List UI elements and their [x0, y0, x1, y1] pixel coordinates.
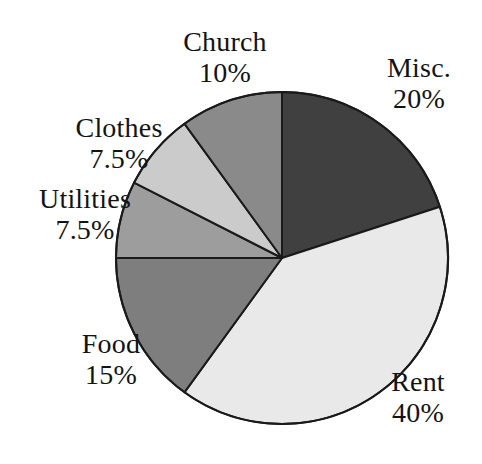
slice-label-food: Food 15% [46, 328, 176, 391]
slice-label-clothes-value: 7.5% [44, 143, 194, 174]
slice-label-rent: Rent 40% [358, 366, 478, 429]
slice-label-misc: Misc. 20% [356, 52, 482, 115]
slice-label-church: Church 10% [145, 26, 305, 89]
slice-label-utilities-name: Utilities [10, 183, 160, 214]
slice-label-food-name: Food [46, 328, 176, 359]
slice-label-misc-value: 20% [356, 83, 482, 114]
pie-chart-figure: Church 10% Misc. 20% Clothes 7.5% Utilit… [0, 0, 482, 464]
slice-label-church-name: Church [145, 26, 305, 57]
slice-label-food-value: 15% [46, 359, 176, 390]
slice-label-utilities-value: 7.5% [10, 214, 160, 245]
slice-label-misc-name: Misc. [356, 52, 482, 83]
slice-label-clothes-name: Clothes [44, 112, 194, 143]
slice-label-clothes: Clothes 7.5% [44, 112, 194, 175]
slice-label-rent-name: Rent [358, 366, 478, 397]
slice-label-rent-value: 40% [358, 397, 478, 428]
slice-label-utilities: Utilities 7.5% [10, 183, 160, 246]
slice-label-church-value: 10% [145, 57, 305, 88]
